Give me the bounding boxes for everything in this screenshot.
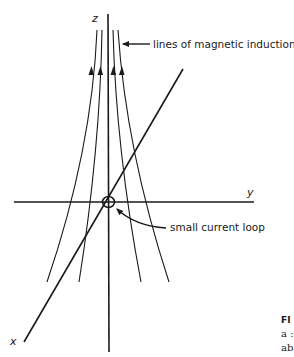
figure-caption-fragment: FI a : ab [281,313,294,355]
caption-title: FI [281,313,294,327]
field-line-3 [113,30,141,282]
loop-pointer-arrow [117,209,166,228]
z-axis [108,14,109,352]
magnetic-dipole-diagram: z y x lines of magnetic induction small … [0,0,294,357]
arrow-up-icon [98,66,104,75]
arrow-up-icon [89,66,95,75]
z-axis-label: z [91,12,98,25]
arrow-up-icon [111,66,117,75]
caption-line: a : [281,327,294,341]
arrow-up-icon [119,66,125,75]
current-loop-label: small current loop [170,221,265,233]
field-line-4 [118,30,169,282]
field-line-1 [47,30,97,282]
field-line-2 [79,30,102,282]
y-axis-label: y [246,186,254,199]
x-axis-label: x [9,335,17,348]
field-lines-label: lines of magnetic induction [153,38,294,50]
caption-line: ab [281,341,294,355]
